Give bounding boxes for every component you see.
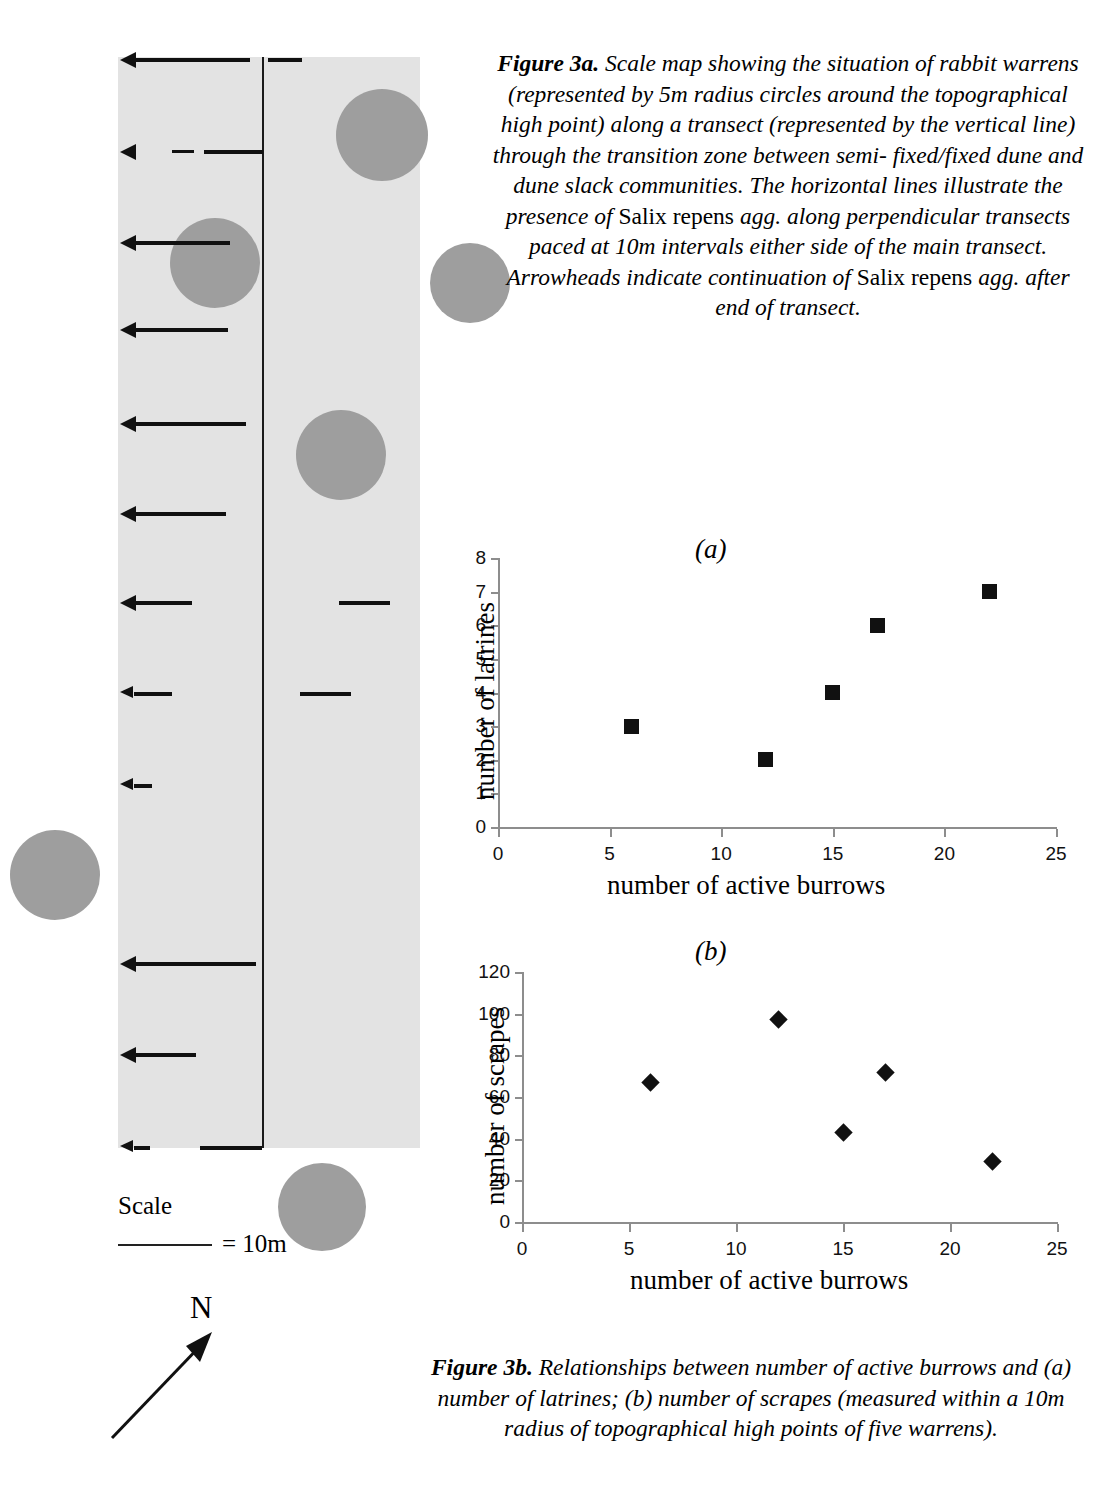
y-axis-tick (515, 1139, 522, 1141)
y-axis-tick-label: 0 (452, 1211, 510, 1233)
x-axis-tick-label: 5 (599, 1238, 659, 1260)
y-axis-tick (515, 1014, 522, 1016)
data-point-marker (770, 1011, 788, 1029)
x-axis-tick-label: 10 (706, 1238, 766, 1260)
x-axis-tick-label: 20 (920, 1238, 980, 1260)
figure-3b-line1: Relationships between number of active (539, 1354, 914, 1380)
x-axis-tick (522, 1224, 524, 1232)
y-axis-tick-label: 120 (452, 961, 510, 983)
y-axis-title: number of scrapes (480, 1007, 511, 1205)
x-axis-title: number of active burrows (630, 1265, 908, 1296)
x-axis-tick (950, 1224, 952, 1232)
x-axis-tick (629, 1224, 631, 1232)
x-axis-tick-label: 15 (813, 1238, 873, 1260)
x-axis-tick-label: 25 (1027, 1238, 1087, 1260)
figure-3b-line4: points of five warrens). (781, 1415, 998, 1441)
y-axis-tick (515, 1097, 522, 1099)
data-point-marker (984, 1152, 1002, 1170)
x-axis-line (522, 1222, 1058, 1224)
x-axis-tick-label: 0 (492, 1238, 552, 1260)
data-point-marker (641, 1073, 659, 1091)
data-point-marker (877, 1063, 895, 1081)
x-axis-tick (736, 1224, 738, 1232)
y-axis-line (522, 972, 524, 1223)
y-axis-tick (515, 972, 522, 974)
panel-letter: (b) (695, 936, 726, 967)
x-axis-tick (1057, 1224, 1059, 1232)
y-axis-tick (515, 1180, 522, 1182)
y-axis-tick (515, 1055, 522, 1057)
data-point-marker (834, 1123, 852, 1141)
chart-scrapes: 0204060801001200510152025number of activ… (0, 0, 1107, 1510)
figure-3b-label: Figure 3b. (431, 1354, 533, 1380)
x-axis-tick (843, 1224, 845, 1232)
figure-3b-caption: Figure 3b. Relationships between number … (406, 1352, 1096, 1444)
y-axis-tick (515, 1222, 522, 1224)
